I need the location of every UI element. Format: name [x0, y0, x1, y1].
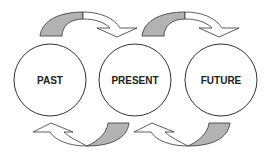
node-future-label: FUTURE [201, 75, 242, 86]
node-past-label: PAST [37, 75, 63, 86]
arrow-future-to-present [134, 123, 230, 146]
node-past: PAST [14, 44, 86, 116]
node-present-label: PRESENT [111, 75, 158, 86]
cycle-diagram: PAST PRESENT FUTURE [0, 0, 272, 158]
arrow-present-to-future [142, 12, 239, 37]
arrow-present-to-past [33, 123, 129, 146]
node-present: PRESENT [99, 44, 171, 116]
arrow-past-to-present [40, 12, 137, 37]
node-future: FUTURE [185, 44, 257, 116]
